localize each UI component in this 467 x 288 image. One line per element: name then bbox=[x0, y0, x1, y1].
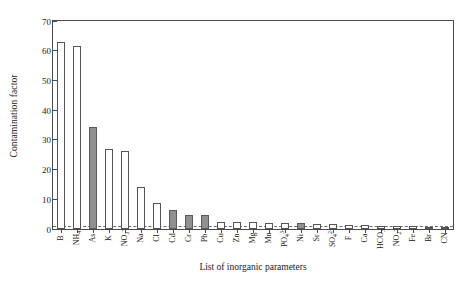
x-axis-title: List of inorganic parameters bbox=[52, 262, 454, 272]
x-axis-category-text: K bbox=[105, 235, 113, 241]
y-axis-title: Contamination factor bbox=[4, 0, 22, 232]
x-axis-category-text: Mn bbox=[265, 232, 273, 243]
x-axis-category-text: As bbox=[89, 234, 97, 243]
x-axis-tick-mark bbox=[413, 229, 414, 233]
x-axis-tick-mark bbox=[109, 229, 110, 233]
plot-area: 010203040506070 BNH4AsKNO3-NaClCdCrPbCuZ… bbox=[52, 20, 454, 230]
x-axis-category-text: SO42- bbox=[329, 229, 337, 247]
x-axis-category-text: PO43- bbox=[281, 229, 289, 247]
x-axis-category-text: NH4 bbox=[73, 231, 81, 246]
x-axis-category-text: NO3- bbox=[121, 230, 129, 247]
x-axis-tick-mark bbox=[205, 229, 206, 233]
x-axis-tick-mark bbox=[93, 229, 94, 233]
chart-figure: Contamination factor 010203040506070 BNH… bbox=[0, 0, 467, 288]
y-axis-tick-label: 10 bbox=[42, 195, 53, 204]
x-axis-tick-mark bbox=[429, 229, 430, 233]
x-axis-category-text: Br bbox=[425, 234, 433, 242]
x-axis-tick-mark bbox=[301, 229, 302, 233]
bar bbox=[121, 151, 130, 229]
y-axis-tick-label: 50 bbox=[42, 76, 53, 85]
x-axis-category-text: Ni bbox=[297, 234, 305, 242]
y-axis-title-text: Contamination factor bbox=[8, 75, 18, 158]
x-axis-category-text: HCO3- bbox=[377, 227, 385, 249]
x-axis-tick-mark bbox=[61, 229, 62, 233]
x-axis-tick-mark bbox=[189, 229, 190, 233]
y-axis-tick-label: 30 bbox=[42, 136, 53, 145]
bar bbox=[217, 222, 226, 229]
bar bbox=[233, 222, 242, 229]
x-axis-category-text: F bbox=[345, 236, 353, 240]
bar bbox=[169, 210, 178, 229]
x-axis-tick-mark bbox=[157, 229, 158, 233]
bar-series bbox=[53, 21, 453, 229]
y-axis-tick-label: 40 bbox=[42, 106, 53, 115]
x-axis-category-text: CN bbox=[441, 232, 449, 243]
bar bbox=[201, 215, 210, 229]
x-axis-category-text: Cd bbox=[169, 233, 177, 242]
bar bbox=[137, 187, 146, 229]
x-axis-category-text: Cu bbox=[217, 233, 225, 242]
bar bbox=[153, 203, 162, 229]
bar bbox=[105, 149, 114, 229]
y-axis-tick-label: 70 bbox=[42, 17, 53, 26]
y-axis-tick-label: 20 bbox=[42, 166, 53, 175]
bar bbox=[185, 215, 194, 229]
bar bbox=[73, 46, 82, 229]
x-axis-category-text: NO2- bbox=[393, 230, 401, 247]
x-axis-category-text: Sr bbox=[313, 234, 321, 241]
x-axis-category-text: Fe bbox=[409, 234, 417, 242]
x-axis-category-text: B bbox=[57, 235, 65, 240]
bar bbox=[57, 42, 66, 229]
x-axis-category-text: Ca bbox=[361, 234, 369, 243]
x-axis-category-text: Mg bbox=[249, 232, 257, 243]
x-axis-tick-mark bbox=[317, 229, 318, 233]
x-axis-category-text: Zn bbox=[233, 234, 241, 243]
y-axis-tick-label: 60 bbox=[42, 47, 53, 56]
x-axis-tick-mark bbox=[349, 229, 350, 233]
x-axis-tick-mark bbox=[237, 229, 238, 233]
bar bbox=[89, 127, 98, 229]
x-axis-category-text: Pb bbox=[201, 234, 209, 242]
x-axis-category-text: Cl bbox=[153, 234, 161, 242]
x-axis-category-text: Cr bbox=[185, 234, 193, 242]
x-axis-category-text: Na bbox=[137, 233, 145, 242]
x-axis-tick-mark bbox=[365, 229, 366, 233]
